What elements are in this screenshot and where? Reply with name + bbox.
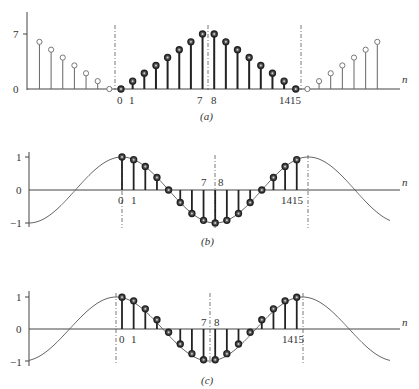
marker-center: [260, 64, 262, 66]
marker-center: [226, 219, 228, 221]
open-marker: [351, 55, 356, 60]
marker-center: [284, 300, 286, 302]
marker-center: [203, 219, 205, 221]
open-marker: [95, 79, 100, 84]
open-marker: [49, 47, 54, 52]
marker-center: [168, 189, 170, 191]
y-tick-1: 1: [16, 291, 22, 303]
open-marker: [340, 63, 345, 68]
figure: 7 0 0 1 7 8 1415 n (a) 1 0 −1 0 1 7 8 14…: [0, 0, 419, 389]
marker-center: [202, 33, 204, 35]
marker-center: [133, 300, 135, 302]
x-label-1: 1: [131, 194, 137, 206]
y-tick-7: 7: [13, 28, 19, 40]
marker-center: [156, 319, 158, 321]
marker-center: [248, 57, 250, 59]
y-tick-0: 0: [13, 83, 19, 95]
marker-center: [249, 202, 251, 204]
x-label-0: 0: [117, 94, 123, 106]
y-tick-1: 1: [16, 151, 22, 163]
y-tick-0: 0: [16, 184, 22, 196]
caption-a: (a): [200, 110, 213, 123]
marker-center: [296, 159, 298, 161]
x-label-8: 8: [218, 176, 224, 188]
marker-center: [191, 212, 193, 214]
y-tick-minus1: −1: [10, 217, 22, 229]
panel-a: [23, 12, 400, 92]
marker-center: [238, 212, 240, 214]
open-marker: [60, 55, 65, 60]
marker-center: [121, 156, 123, 158]
open-marker: [363, 47, 368, 52]
marker-center: [214, 359, 216, 361]
x-label-1: 1: [131, 333, 137, 345]
marker-center: [249, 331, 251, 333]
marker-center: [295, 88, 297, 90]
open-marker: [375, 39, 380, 44]
marker-center: [296, 296, 298, 298]
x-label-8: 8: [211, 94, 217, 106]
marker-center: [226, 353, 228, 355]
panel-b: [25, 152, 400, 228]
marker-center: [132, 80, 134, 82]
panel-c: [25, 291, 400, 366]
marker-center: [178, 49, 180, 51]
x-label-1: 1: [129, 94, 135, 106]
marker-center: [261, 189, 263, 191]
open-marker: [37, 39, 42, 44]
marker-center: [238, 343, 240, 345]
marker-center: [179, 343, 181, 345]
marker-center: [283, 80, 285, 82]
open-marker: [83, 71, 88, 76]
axis-label-n: n: [402, 316, 408, 328]
marker-center: [190, 41, 192, 43]
marker-center: [120, 88, 122, 90]
axis-label-n: n: [402, 73, 408, 85]
open-marker: [305, 86, 310, 91]
marker-center: [237, 49, 239, 51]
x-label-7: 7: [201, 176, 207, 188]
open-marker: [107, 86, 112, 91]
y-tick-minus1: −1: [10, 356, 22, 368]
marker-center: [168, 331, 170, 333]
marker-center: [284, 166, 286, 168]
marker-center: [155, 64, 157, 66]
x-label-0: 0: [119, 333, 125, 345]
x-label-0: 0: [118, 194, 124, 206]
marker-center: [191, 353, 193, 355]
caption-c: (c): [201, 374, 214, 387]
marker-center: [213, 33, 215, 35]
marker-center: [121, 296, 123, 298]
marker-center: [214, 222, 216, 224]
marker-center: [156, 176, 158, 178]
marker-center: [225, 41, 227, 43]
x-label-7: 7: [201, 316, 207, 328]
marker-center: [203, 359, 205, 361]
x-label-1415: 1415: [279, 94, 302, 106]
marker-center: [261, 319, 263, 321]
x-label-1415: 1415: [282, 333, 305, 345]
marker-center: [133, 159, 135, 161]
marker-center: [143, 72, 145, 74]
marker-center: [144, 308, 146, 310]
marker-center: [167, 57, 169, 59]
marker-center: [272, 308, 274, 310]
x-label-1415: 1415: [281, 194, 304, 206]
marker-center: [179, 202, 181, 204]
open-marker: [316, 79, 321, 84]
x-label-8: 8: [214, 316, 220, 328]
open-marker: [328, 71, 333, 76]
marker-center: [271, 72, 273, 74]
open-marker: [72, 63, 77, 68]
x-label-7: 7: [197, 94, 203, 106]
marker-center: [272, 176, 274, 178]
axis-label-n: n: [402, 176, 408, 188]
marker-center: [144, 166, 146, 168]
y-tick-0: 0: [16, 323, 22, 335]
caption-b: (b): [201, 235, 214, 248]
